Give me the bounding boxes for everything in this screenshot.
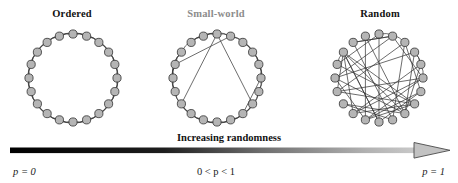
axis-caption: Increasing randomness (177, 132, 281, 143)
network-node (361, 32, 369, 40)
network-node (417, 88, 425, 96)
node-group (169, 30, 265, 126)
network-node (105, 48, 113, 56)
network-node (227, 116, 235, 124)
network-node (375, 118, 383, 126)
panel-title-random: Random (360, 8, 400, 19)
parameter-label-left: p = 0 (13, 166, 36, 177)
network-node (213, 30, 221, 38)
network-node (25, 74, 33, 82)
network-node (27, 60, 35, 68)
figure-canvas: Ordered Small-world Random Increasing ra… (0, 0, 458, 183)
network-node (105, 100, 113, 108)
network-node (339, 100, 347, 108)
randomness-axis: Increasing randomness (0, 132, 458, 160)
network-node (227, 32, 235, 40)
network-node (113, 74, 121, 82)
network-node (375, 30, 383, 38)
network-node (177, 48, 185, 56)
network-node (333, 88, 341, 96)
network-node (389, 116, 397, 124)
network-node (83, 116, 91, 124)
network-node (389, 32, 397, 40)
edge-group (28, 33, 119, 124)
edge-group (172, 33, 263, 124)
network-node (419, 74, 427, 82)
network-node (69, 30, 77, 38)
parameter-label-middle: 0 < p < 1 (197, 166, 235, 177)
network-node (411, 48, 419, 56)
edge (353, 36, 392, 42)
network-node (187, 110, 195, 118)
network-node (239, 38, 247, 46)
edge (365, 36, 404, 113)
network-node (177, 100, 185, 108)
edge (335, 36, 393, 78)
network-node (331, 74, 339, 82)
network-node (257, 74, 265, 82)
network-node (199, 116, 207, 124)
network-node (239, 110, 247, 118)
network-node (43, 110, 51, 118)
parameter-label-right: p = 1 (422, 166, 445, 177)
network-node (349, 38, 357, 46)
network-node (411, 100, 419, 108)
network-node (171, 88, 179, 96)
network-node (401, 110, 409, 118)
network-graph-small-world (152, 22, 282, 134)
network-node (361, 116, 369, 124)
panel-title-ordered: Ordered (52, 8, 92, 19)
network-node (255, 60, 263, 68)
network-node (199, 32, 207, 40)
network-node (33, 48, 41, 56)
network-node (69, 118, 77, 126)
node-group (25, 30, 121, 126)
network-node (111, 88, 119, 96)
network-node (249, 100, 257, 108)
network-node (401, 38, 409, 46)
network-node (339, 48, 347, 56)
network-node (333, 60, 341, 68)
network-node (43, 38, 51, 46)
network-node (55, 32, 63, 40)
network-node (111, 60, 119, 68)
network-graph-random (314, 22, 444, 134)
network-node (171, 60, 179, 68)
network-node (169, 74, 177, 82)
network-node (95, 110, 103, 118)
network-node (95, 38, 103, 46)
network-node (255, 88, 263, 96)
network-node (249, 48, 257, 56)
network-graph-ordered (8, 22, 138, 134)
network-node (213, 118, 221, 126)
network-node (27, 88, 35, 96)
network-node (55, 116, 63, 124)
panel-title-small-world: Small-world (187, 8, 245, 19)
network-node (83, 32, 91, 40)
edge-group (335, 34, 423, 122)
network-node (187, 38, 195, 46)
network-node (33, 100, 41, 108)
network-node (349, 110, 357, 118)
network-node (417, 60, 425, 68)
